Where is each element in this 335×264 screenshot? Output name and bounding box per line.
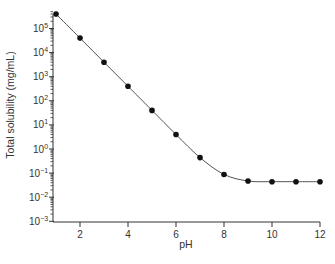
- x-tick-label: 2: [77, 229, 83, 240]
- data-point-marker: [125, 83, 131, 89]
- data-point-marker: [245, 178, 251, 184]
- y-tick-label: 100: [33, 143, 48, 155]
- data-point-marker: [197, 155, 203, 161]
- x-tick-label: 12: [314, 229, 326, 240]
- y-axis: 10510410310210110010−110−210−3: [29, 15, 54, 227]
- x-tick-label: 4: [125, 229, 131, 240]
- solubility-curve: [56, 14, 320, 182]
- data-points: [53, 11, 323, 184]
- y-tick-label: 103: [33, 70, 48, 82]
- x-tick-label: 10: [266, 229, 278, 240]
- y-tick-label: 10−1: [29, 167, 48, 179]
- solubility-chart: 10510410310210110010−110−210−3 24681012 …: [0, 0, 335, 264]
- y-tick-label: 101: [33, 118, 48, 130]
- data-point-marker: [293, 179, 299, 185]
- data-point-marker: [149, 108, 155, 114]
- y-tick-label: 102: [33, 94, 48, 106]
- y-tick-label: 10−3: [29, 215, 48, 227]
- y-tick-label: 10−2: [29, 191, 48, 203]
- x-tick-label: 8: [221, 229, 227, 240]
- x-axis-title: pH: [179, 238, 192, 250]
- y-tick-label: 105: [33, 22, 48, 34]
- data-point-marker: [317, 179, 323, 185]
- data-point-marker: [269, 179, 275, 185]
- data-point-marker: [221, 172, 227, 178]
- data-point-marker: [77, 35, 83, 41]
- y-axis-title: Total solubility (mg/mL): [4, 51, 16, 158]
- data-point-marker: [101, 59, 107, 65]
- data-point-marker: [53, 11, 59, 17]
- y-tick-label: 104: [33, 46, 48, 58]
- data-point-marker: [173, 132, 179, 138]
